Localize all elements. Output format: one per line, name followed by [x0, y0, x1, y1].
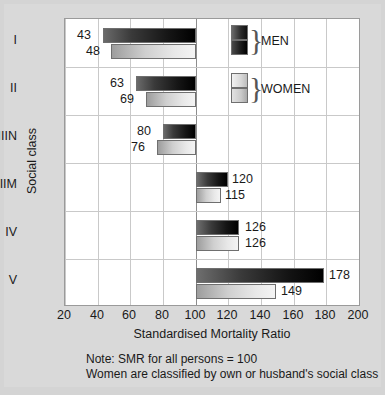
x-tick-label-200: 200: [338, 308, 378, 322]
legend-label-men: MEN: [261, 34, 289, 48]
bar-men-I: [103, 28, 196, 43]
bar-women-II: [146, 92, 196, 107]
gridline-row-2: [65, 115, 359, 116]
y-tick-label-I: I: [0, 33, 17, 47]
bar-women-IV: [196, 236, 239, 251]
bar-value-women-IV: 126: [245, 236, 266, 251]
bar-value-men-V: 178: [329, 268, 350, 283]
figure-container: Social class I II IIIN IIIM IV V 43 48: [0, 0, 385, 395]
bar-value-women-IIIM: 115: [225, 188, 245, 203]
gridline-row-3: [65, 163, 359, 164]
gridline-x-40: [98, 19, 99, 305]
legend-women-swatches: [231, 73, 248, 103]
legend-swatch-women-upper: [231, 73, 248, 88]
bar-men-IV: [196, 220, 239, 235]
legend-swatch-men-lower: [231, 40, 248, 55]
y-tick-label-V: V: [0, 273, 17, 287]
x-axis-title: Standardised Mortality Ratio: [64, 327, 360, 341]
y-tick-label-IIIN: IIIN: [0, 129, 17, 143]
bar-value-women-V: 149: [281, 284, 302, 299]
gridline-x-120: [228, 19, 229, 305]
legend-label-women: WOMEN: [261, 82, 310, 96]
gridline-x-180: [326, 19, 327, 305]
bar-value-men-IIIM: 120: [232, 172, 253, 187]
gridline-x-160: [294, 19, 295, 305]
bar-men-IIIM: [196, 172, 228, 187]
chart-note-line-2: Women are classified by own or husband's…: [86, 367, 378, 382]
bar-men-II: [136, 76, 196, 91]
y-axis-title: Social class: [25, 111, 39, 211]
bar-value-men-I: 43: [77, 28, 91, 43]
legend-men-swatches: [231, 25, 248, 55]
legend-swatch-men-upper: [231, 25, 248, 40]
legend-swatch-women-lower: [231, 88, 248, 103]
bar-women-IIIM: [196, 188, 221, 203]
gridline-x-20: [65, 19, 66, 305]
baseline-100: [196, 19, 197, 305]
gridline-x-60: [130, 19, 131, 305]
bar-women-IIIN: [157, 140, 196, 155]
gridline-x-80: [163, 19, 164, 305]
gridline-row-4: [65, 211, 359, 212]
bar-value-men-IV: 126: [245, 220, 266, 235]
y-tick-label-II: II: [0, 81, 17, 95]
bar-men-V: [196, 268, 324, 283]
gridline-x-140: [261, 19, 262, 305]
gridline-row-1: [65, 67, 359, 68]
chart-note: Note: SMR for all persons = 100 Women ar…: [86, 352, 378, 382]
plot-area: 43 48 63 69 80 76 120: [64, 18, 360, 306]
bar-value-women-IIIN: 76: [131, 140, 145, 155]
y-tick-label-IV: IV: [0, 225, 17, 239]
bar-value-men-IIIN: 80: [137, 124, 151, 139]
gridline-row-5: [65, 259, 359, 260]
chart-note-line-1: Note: SMR for all persons = 100: [86, 352, 378, 367]
bar-value-women-I: 48: [86, 44, 100, 59]
bar-women-I: [111, 44, 196, 59]
y-tick-label-IIIM: IIIM: [0, 177, 17, 191]
bar-value-women-II: 69: [120, 92, 134, 107]
bar-women-V: [196, 284, 276, 299]
bar-men-IIIN: [163, 124, 196, 139]
bar-value-men-II: 63: [110, 76, 124, 91]
